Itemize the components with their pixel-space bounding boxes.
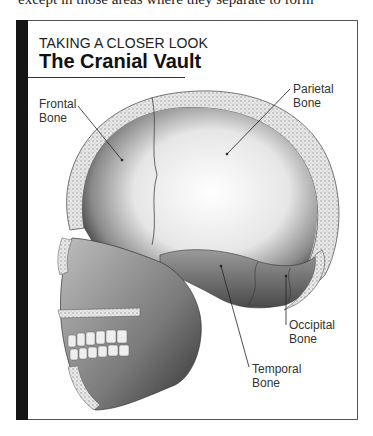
label-frontal-bone: Frontal Bone bbox=[39, 97, 76, 125]
skull-illustration bbox=[0, 0, 373, 436]
label-line: Parietal bbox=[293, 82, 334, 96]
label-occipital-bone: Occipital Bone bbox=[289, 318, 335, 346]
hard-palate bbox=[58, 308, 140, 318]
label-line: Occipital bbox=[289, 318, 335, 332]
label-line: Frontal bbox=[39, 97, 76, 111]
label-line: Temporal bbox=[252, 362, 301, 376]
label-temporal-bone: Temporal Bone bbox=[252, 362, 301, 390]
label-line: Bone bbox=[39, 111, 76, 125]
label-line: Bone bbox=[252, 376, 301, 390]
label-line: Bone bbox=[289, 332, 335, 346]
label-line: Bone bbox=[293, 96, 334, 110]
label-parietal-bone: Parietal Bone bbox=[293, 82, 334, 110]
